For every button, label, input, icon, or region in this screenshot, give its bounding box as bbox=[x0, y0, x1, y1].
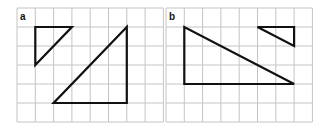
panel-b: b bbox=[166, 8, 312, 122]
grid bbox=[166, 8, 312, 122]
panel-label: a bbox=[20, 11, 26, 22]
panel-label: b bbox=[169, 11, 175, 22]
similar-triangles-diagram: a b bbox=[0, 0, 328, 129]
panel-a: a bbox=[17, 8, 163, 122]
